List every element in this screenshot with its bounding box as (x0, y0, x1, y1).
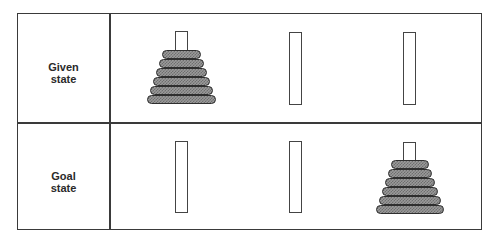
disk-5 (150, 86, 213, 95)
disk-2 (159, 59, 204, 68)
goal-label-line-1: Goal (18, 170, 109, 182)
given-peg-3 (403, 32, 416, 105)
given-state-label: Given state (18, 61, 109, 85)
disk-2 (388, 169, 432, 178)
given-peg-2 (289, 32, 302, 105)
disk-3 (156, 68, 207, 77)
disk-5 (379, 196, 441, 205)
goal-peg-1 (175, 141, 188, 213)
disk-4 (382, 187, 438, 196)
goal-peg-2 (289, 141, 302, 213)
given-label-line-2: state (18, 73, 109, 85)
row-divider (17, 122, 482, 124)
disk-3 (385, 178, 435, 187)
goal-state-label: Goal state (18, 170, 109, 194)
disk-1 (162, 50, 201, 59)
given-label-line-1: Given (18, 61, 109, 73)
disk-4 (153, 77, 210, 86)
disk-6 (376, 205, 444, 214)
disk-6 (147, 95, 216, 104)
disk-1 (391, 160, 429, 169)
goal-label-line-2: state (18, 182, 109, 194)
